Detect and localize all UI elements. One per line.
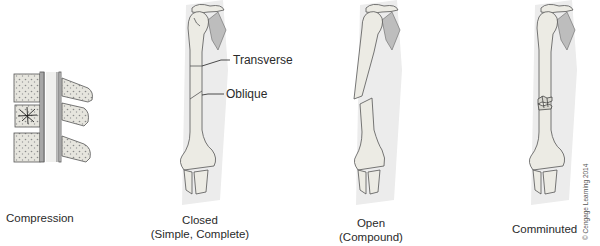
closed-fracture-illustration <box>180 0 228 205</box>
caption-compression: Compression <box>6 211 74 225</box>
caption-closed-line1: Closed <box>145 213 255 227</box>
caption-closed-line2: (Simple, Complete) <box>145 227 255 241</box>
spinous-process-2 <box>62 103 89 126</box>
caption-closed: Closed (Simple, Complete) <box>145 213 255 241</box>
caption-comminuted: Comminuted <box>512 222 577 236</box>
caption-open: Open (Compound) <box>326 216 416 244</box>
spinous-process-1 <box>62 78 93 102</box>
caption-open-line1: Open <box>326 216 416 230</box>
open-fracture-illustration <box>354 0 402 205</box>
callout-transverse: Transverse <box>233 53 293 67</box>
vertebral-body-lower <box>14 133 40 162</box>
fracture-diagram <box>0 0 600 246</box>
caption-compression-line1: Compression <box>6 211 74 225</box>
callout-oblique: Oblique <box>226 87 267 101</box>
compression-illustration <box>14 72 93 162</box>
comminuted-fracture-illustration <box>529 0 577 205</box>
vertebral-body-upper <box>14 74 40 102</box>
caption-comminuted-line1: Comminuted <box>512 222 577 236</box>
spinous-process-3 <box>62 136 90 162</box>
caption-open-line2: (Compound) <box>326 230 416 244</box>
copyright-credit: © Cengage Learning 2014 <box>582 164 589 240</box>
